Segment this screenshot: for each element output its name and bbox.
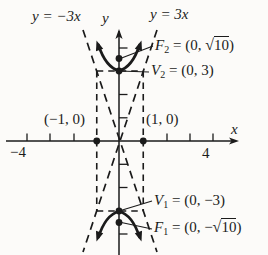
focus2-label: F2 = (0, √10) bbox=[155, 36, 234, 54]
lower-left-branch-arrowhead bbox=[93, 231, 103, 243]
vertex2-dot bbox=[116, 68, 123, 75]
vertex2-label: V2 = (0, 3) bbox=[151, 62, 214, 79]
vertex1-dot bbox=[116, 208, 123, 215]
focus1-dot bbox=[116, 219, 123, 226]
focus1-symbol: F bbox=[154, 219, 163, 235]
vertex1-coords: = (0, −3) bbox=[168, 192, 225, 208]
x-axis-max-value: 4 bbox=[202, 145, 210, 162]
x-axis-min-value: −4 bbox=[10, 144, 26, 161]
leader-lines bbox=[119, 46, 153, 229]
hyperbola-figure: y = −3x y y = 3x F2 = (0, √10) V2 = (0, … bbox=[0, 0, 268, 255]
x-intercept-right-label: (1, 0) bbox=[146, 111, 179, 128]
focus1-coords-open: = (0, − bbox=[168, 219, 212, 235]
vertex2-coords: = (0, 3) bbox=[165, 62, 213, 78]
vertex1-label: V1 = (0, −3) bbox=[154, 192, 225, 209]
lower-right-branch-arrowhead bbox=[135, 231, 145, 243]
asymptote-left-label: y = −3x bbox=[32, 8, 81, 25]
radical-icon: √ bbox=[205, 36, 214, 53]
x-intercept-right-dot bbox=[140, 138, 147, 145]
asymptote-right-label: y = 3x bbox=[150, 6, 188, 23]
focus2-symbol: F bbox=[155, 37, 164, 53]
focus1-label: F1 = (0, −√10) bbox=[154, 218, 241, 236]
upper-left-branch-arrowhead bbox=[93, 39, 103, 51]
x-intercept-left-label: (−1, 0) bbox=[44, 111, 85, 128]
y-axis-label: y bbox=[102, 10, 109, 27]
vertex2-symbol: V bbox=[151, 62, 160, 78]
x-axis-label: x bbox=[231, 121, 238, 138]
vertex1-symbol: V bbox=[154, 192, 163, 208]
focus2-dot bbox=[116, 55, 123, 62]
focus2-coords-close: ) bbox=[229, 37, 234, 53]
focus1-coords-close: ) bbox=[236, 219, 241, 235]
focus2-coords-open: = (0, bbox=[169, 37, 205, 53]
focus1-radicand: 10 bbox=[221, 218, 236, 235]
focus2-radicand: 10 bbox=[214, 36, 229, 53]
x-intercept-left-dot bbox=[93, 138, 100, 145]
